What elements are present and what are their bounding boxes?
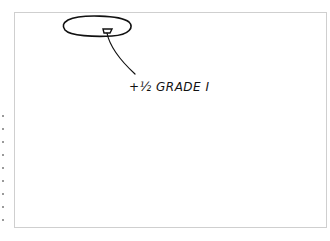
leader-line <box>107 33 135 74</box>
marker-shape <box>103 29 112 33</box>
grade-annotation: +½ GRADE I <box>129 80 210 94</box>
sketch-drawing <box>0 0 330 241</box>
oval-shape <box>63 16 131 36</box>
